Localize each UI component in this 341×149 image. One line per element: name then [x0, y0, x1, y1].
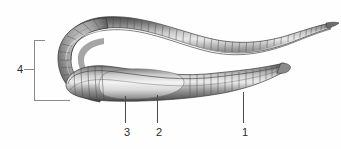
bracket-bottom-arm-4 — [34, 100, 70, 101]
leader-line-2 — [157, 95, 158, 123]
callout-label-3: 3 — [120, 126, 134, 138]
callout-label-4: 4 — [13, 63, 27, 75]
bracket-vertical-4 — [34, 40, 35, 101]
earthworm-illustration — [0, 0, 341, 149]
callout-label-1: 1 — [238, 126, 252, 138]
leader-line-1 — [243, 92, 244, 123]
callout-label-2: 2 — [152, 126, 166, 138]
worm-ventral-body — [66, 63, 291, 101]
bracket-top-arm-4 — [34, 40, 45, 41]
earthworm-anatomy-figure: 1 2 3 4 — [0, 0, 341, 149]
leader-line-3 — [125, 96, 126, 123]
